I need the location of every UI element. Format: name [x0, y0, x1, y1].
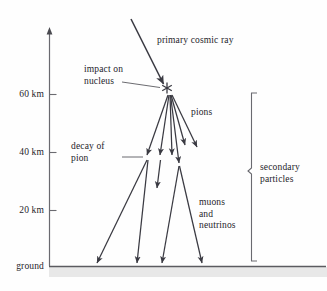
- axis-label-40km: 40 km: [4, 147, 44, 159]
- axis-label-20km: 20 km: [4, 205, 44, 217]
- label-secondary-particles: secondary particles: [260, 162, 300, 185]
- muon-track-2: [137, 160, 148, 263]
- muon-neutrino-tracks: [97, 160, 202, 263]
- cosmic-ray-shower-diagram: 60 km 40 km 20 km ground primary cosmic …: [0, 0, 327, 291]
- label-muons-and-neutrinos: muons and neutrinos: [199, 197, 236, 232]
- muon-track-1: [97, 160, 147, 263]
- muon-track-3: [157, 160, 161, 188]
- label-pions: pions: [191, 107, 212, 119]
- primary-cosmic-ray-arrow: [131, 19, 164, 84]
- axis-arrow-icon: [47, 27, 53, 35]
- impact-leader-line: [122, 82, 160, 88]
- ground-band: [49, 267, 327, 277]
- label-decay-of-pion: decay of pion: [71, 141, 105, 164]
- axis-label-ground: ground: [0, 261, 44, 273]
- pion-tracks: [147, 95, 197, 163]
- label-impact-on-nucleus: impact on nucleus: [84, 64, 123, 87]
- muon-track-4: [162, 166, 179, 263]
- axis-label-60km: 60 km: [4, 89, 44, 101]
- secondary-particles-brace: [248, 93, 257, 261]
- label-primary-cosmic-ray: primary cosmic ray: [157, 35, 234, 47]
- impact-asterisk-icon: [162, 83, 172, 94]
